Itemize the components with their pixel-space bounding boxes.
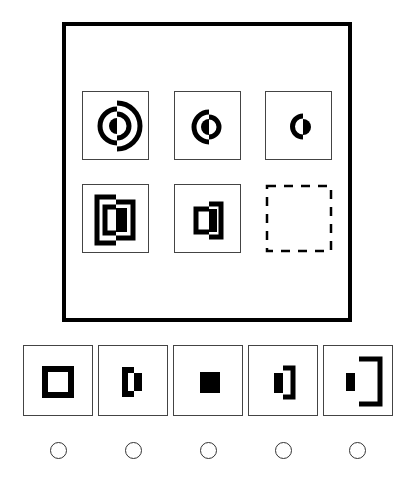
puzzle-matrix-frame	[62, 22, 352, 322]
matrix-cell-r2c1	[82, 184, 149, 253]
answer-option-5[interactable]	[323, 345, 393, 416]
small-bar-with-large-bracket-figure	[324, 346, 394, 417]
matrix-cell-r1c2	[174, 91, 241, 160]
answer-option-1[interactable]	[23, 345, 93, 416]
bracket-with-right-bar-figure	[99, 346, 169, 417]
radio-option-1[interactable]	[50, 442, 67, 459]
radio-option-3[interactable]	[200, 442, 217, 459]
split-squares-three-nested-figure	[83, 185, 150, 254]
matrix-cell-r1c1	[82, 91, 149, 160]
radio-option-5[interactable]	[349, 442, 366, 459]
split-circle-two-rings-figure	[175, 92, 242, 161]
left-bar-with-right-bracket-figure	[249, 346, 319, 417]
dashed-placeholder-box	[265, 184, 334, 254]
radio-option-4[interactable]	[275, 442, 292, 459]
hollow-square-figure	[24, 346, 94, 417]
answer-option-3[interactable]	[173, 345, 243, 416]
split-circle-three-rings-figure	[83, 92, 150, 161]
split-circle-one-ring-figure	[266, 92, 333, 161]
answer-option-4[interactable]	[248, 345, 318, 416]
radio-option-2[interactable]	[125, 442, 142, 459]
matrix-cell-r2c2	[174, 184, 241, 253]
solid-square-figure	[174, 346, 244, 417]
answer-option-2[interactable]	[98, 345, 168, 416]
matrix-cell-r1c3	[265, 91, 332, 160]
matrix-cell-r2c3-missing	[265, 184, 332, 253]
split-squares-two-nested-figure	[175, 185, 242, 254]
